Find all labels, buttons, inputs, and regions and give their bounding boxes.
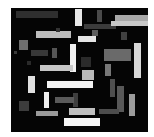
rectangle-3 — [97, 10, 102, 22]
rectangle-18 — [82, 70, 94, 80]
rectangle-8 — [19, 40, 28, 50]
rectangle-22 — [44, 92, 49, 108]
rectangle-26 — [19, 101, 29, 111]
rectangle-34 — [27, 61, 31, 65]
rectangle-1 — [16, 11, 58, 18]
rectangle-19 — [28, 76, 35, 93]
black-canvas — [11, 8, 148, 132]
rectangle-27 — [129, 94, 135, 116]
rectangle-32 — [105, 64, 111, 76]
rectangle-9 — [78, 36, 96, 42]
rectangle-11 — [31, 50, 48, 56]
rectangle-10 — [14, 51, 17, 54]
rectangle-15 — [134, 43, 141, 78]
rectangle-20 — [47, 81, 93, 88]
rectangle-12 — [52, 48, 57, 58]
rectangle-35 — [121, 32, 127, 40]
figure-root — [0, 0, 154, 137]
rectangle-36 — [56, 28, 60, 32]
rectangle-33 — [92, 30, 98, 36]
rectangle-2 — [75, 9, 82, 26]
rectangle-29 — [69, 108, 95, 115]
rectangle-16 — [81, 57, 91, 67]
rectangle-30 — [99, 109, 119, 114]
rectangle-7 — [36, 31, 71, 38]
rectangle-24 — [55, 97, 74, 103]
rectangle-31 — [64, 118, 100, 126]
rectangle-6 — [111, 21, 148, 26]
rectangle-21 — [110, 79, 115, 97]
rectangle-14 — [104, 49, 131, 61]
rectangle-17 — [40, 65, 73, 71]
rectangle-28 — [36, 111, 58, 116]
